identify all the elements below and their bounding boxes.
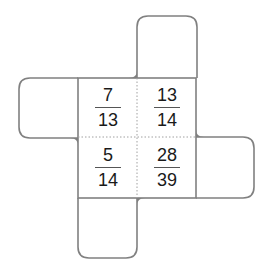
corner-fillet-right (196, 129, 204, 137)
corner-fillet-bottom (137, 198, 145, 206)
denominator: 14 (157, 111, 177, 130)
denominator: 39 (157, 171, 177, 190)
top-flap (137, 16, 197, 78)
denominator: 14 (98, 171, 118, 190)
bottom-flap (78, 198, 137, 258)
numerator: 7 (103, 86, 113, 105)
numerator: 13 (157, 86, 177, 105)
fraction-bar (95, 167, 121, 168)
fraction-top-left: 7 13 (79, 79, 137, 137)
corner-fillet-left (70, 138, 78, 146)
fraction-bottom-right: 28 39 (138, 139, 196, 197)
fraction-top-right: 13 14 (138, 79, 196, 137)
numerator: 5 (103, 146, 113, 165)
fraction-bar (154, 167, 180, 168)
fraction-bar (95, 107, 121, 108)
fraction-bar (154, 107, 180, 108)
corner-fillet-top (129, 70, 137, 78)
left-flap (19, 78, 78, 138)
numerator: 28 (157, 146, 177, 165)
right-flap (196, 137, 254, 198)
fraction-bottom-left: 5 14 (79, 139, 137, 197)
denominator: 13 (98, 111, 118, 130)
